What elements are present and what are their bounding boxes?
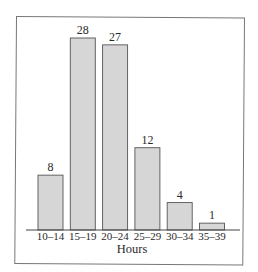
bar-value-label: 4 [177, 188, 183, 202]
bar-value-label: 1 [209, 208, 215, 222]
histogram-chart: 828271241 10–1415–1920–2425–2930–3435–39… [0, 0, 258, 272]
x-tick-label: 20–24 [101, 230, 129, 242]
x-tick-label: 15–19 [69, 230, 97, 242]
bar-30–34 [167, 203, 192, 230]
bar-35–39 [200, 223, 225, 230]
x-tick-label: 30–34 [166, 230, 194, 242]
bar-25–29 [135, 148, 160, 230]
bar-value-label: 28 [77, 23, 89, 37]
x-tick-label: 10–14 [37, 230, 65, 242]
bar-value-label: 12 [141, 133, 153, 147]
bar-15–19 [70, 38, 95, 230]
x-tick-labels: 10–1415–1920–2425–2930–3435–39 [37, 230, 227, 242]
bar-value-label: 8 [48, 160, 54, 174]
bars-group: 828271241 [38, 23, 225, 230]
bar-20–24 [103, 45, 128, 230]
bar-10–14 [38, 175, 63, 230]
bar-value-label: 27 [109, 30, 121, 44]
x-axis-label: Hours [117, 242, 148, 256]
x-tick-label: 35–39 [198, 230, 226, 242]
x-tick-label: 25–29 [134, 230, 162, 242]
